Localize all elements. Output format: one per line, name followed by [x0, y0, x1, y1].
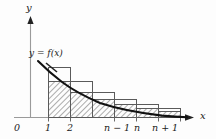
x-axis-label: x	[200, 111, 206, 121]
x-tick-label-1: 1	[45, 123, 51, 133]
y-axis	[27, 16, 33, 118]
x-tick-label-n-minus-1: n − 1	[104, 123, 130, 133]
y-axis-label: y	[26, 3, 32, 13]
x-tick-label-2: 2	[67, 123, 73, 133]
x-axis-ticks	[49, 118, 181, 122]
figure-canvas	[0, 0, 216, 139]
x-tick-label-0: 0	[14, 123, 20, 133]
x-tick-label-n: n	[134, 123, 140, 133]
curve-label: y = f(x)	[29, 49, 63, 58]
integral-test-figure: y x y = f(x) 0 1 2 n − 1 n n + 1	[0, 0, 216, 139]
x-tick-label-n-plus-1: n + 1	[152, 123, 178, 133]
